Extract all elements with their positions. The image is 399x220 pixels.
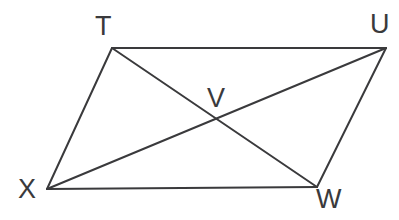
vertex-label-u: U [370,11,390,38]
side-xt [47,48,112,189]
vertex-label-x: X [18,176,36,203]
diagonal-ux [47,48,386,189]
diagonal-tw [112,48,317,187]
side-uw [317,48,386,187]
geometry-figure: T U W X V [0,0,399,220]
vertex-label-w: W [316,186,341,213]
parallelogram-diagonals [47,48,386,189]
vertex-label-t: T [95,13,112,40]
side-wx [47,187,317,189]
vertex-label-v: V [207,85,225,112]
